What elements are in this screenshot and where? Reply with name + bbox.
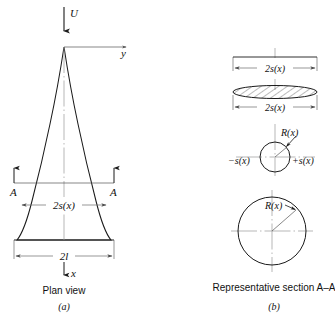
flat-width-dimension-label: 2s(x) <box>265 63 286 75</box>
root-span-dimension-label: 2l <box>60 250 69 262</box>
section-label-left: A <box>9 186 17 198</box>
section-label-right: A <box>109 186 117 198</box>
plan-view-caption: Plan view <box>43 285 87 296</box>
negative-semispan-label: −s(x) <box>228 155 250 167</box>
positive-semispan-label: +s(x) <box>292 155 314 167</box>
local-span-dimension-label: 2s(x) <box>53 199 75 212</box>
freestream-velocity-label: U <box>70 7 79 19</box>
x-axis-label: x <box>70 267 76 279</box>
hatched-section-ellipse <box>233 86 317 99</box>
technical-figure: U y A A 2s(x) 2l x Plan view (a) <box>0 0 335 318</box>
ellipse-width-dimension-label: 2s(x) <box>265 102 286 114</box>
y-axis-label: y <box>120 47 126 59</box>
panel-b-label: (b) <box>268 301 280 313</box>
small-circle-radius-label: R(x) <box>280 127 299 139</box>
large-circle-radius-leader <box>285 205 295 210</box>
large-circle-radius-label: R(x) <box>264 200 283 212</box>
figure-page: U y A A 2s(x) 2l x Plan view (a) <box>0 0 335 318</box>
small-circle-radius-line <box>275 147 287 157</box>
large-circle-radius-line <box>272 210 296 231</box>
panel-a-label: (a) <box>58 301 70 313</box>
representative-section-caption: Representative section A–A <box>213 282 335 293</box>
